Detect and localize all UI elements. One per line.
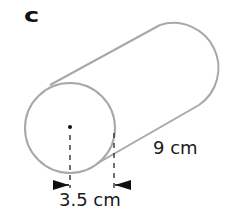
cylinder-top-edge	[50, 25, 160, 85]
cylinder-back-arc	[160, 23, 218, 105]
cylinder-diagram: 3.5 cm 9 cm	[0, 0, 231, 224]
length-label: 9 cm	[153, 137, 198, 158]
center-point	[68, 125, 72, 129]
radius-label: 3.5 cm	[59, 189, 121, 210]
